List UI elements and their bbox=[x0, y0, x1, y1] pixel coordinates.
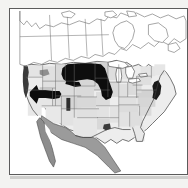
state-fill-arkansas bbox=[97, 107, 109, 118]
state-fill-nebraska bbox=[75, 86, 94, 97]
state-fill-texas bbox=[73, 118, 97, 138]
frame-drop-shadow bbox=[10, 176, 188, 179]
state-fill-kentucky bbox=[119, 97, 137, 105]
state-fill-tennessee bbox=[119, 105, 139, 113]
state-fill-kansas bbox=[77, 97, 96, 108]
state-fill-alabama bbox=[119, 113, 130, 127]
state-fill-indiana bbox=[119, 84, 128, 97]
figure-container: North America distribution map bbox=[0, 0, 188, 188]
north-america-map bbox=[10, 9, 187, 174]
state-fill-idaho bbox=[43, 66, 56, 88]
state-fill-new-england bbox=[154, 64, 165, 75]
state-fill-west-virginia bbox=[133, 85, 142, 93]
state-fill-oklahoma bbox=[77, 108, 98, 118]
map-frame bbox=[9, 8, 188, 175]
state-fill-north-carolina bbox=[138, 98, 156, 107]
lake-ontario bbox=[139, 73, 148, 77]
state-fill-mississippi bbox=[110, 107, 119, 123]
